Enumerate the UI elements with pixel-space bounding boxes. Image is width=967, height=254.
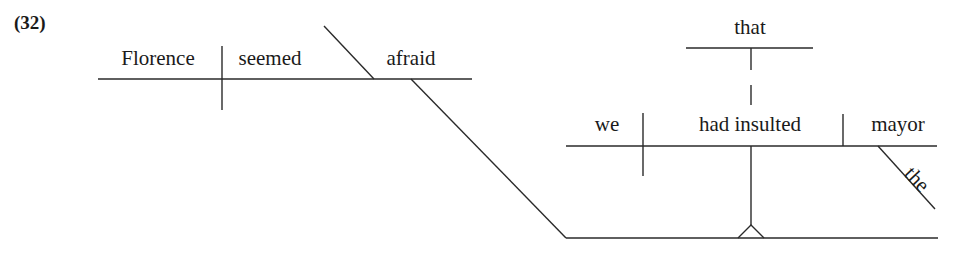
predicate-adjective-divider bbox=[324, 26, 374, 79]
adjective-complement-connector bbox=[411, 79, 938, 238]
word-subject: Florence bbox=[121, 46, 194, 70]
word-connector: that bbox=[734, 15, 766, 39]
word-object-modifier: the bbox=[900, 162, 935, 197]
word-clause-object: mayor bbox=[871, 112, 925, 136]
connector-that: that bbox=[686, 15, 813, 105]
example-number: (32) bbox=[14, 12, 46, 34]
word-predicate-adjective: afraid bbox=[387, 46, 436, 70]
main-clause: Florence seemed afraid bbox=[98, 26, 472, 110]
word-clause-verb: had insulted bbox=[699, 112, 802, 136]
word-verb: seemed bbox=[239, 46, 302, 70]
word-clause-subject: we bbox=[595, 112, 620, 136]
pedestal-joint bbox=[738, 225, 764, 238]
subordinate-clause: we had insulted mayor the bbox=[566, 112, 937, 238]
sentence-diagram: (32) Florence seemed afraid we had insul… bbox=[0, 0, 967, 254]
descending-diagonal bbox=[411, 79, 566, 238]
